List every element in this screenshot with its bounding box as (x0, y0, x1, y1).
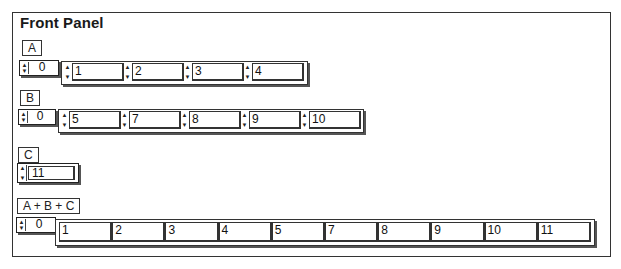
index-spinner[interactable]: ▲ ▼ (18, 219, 26, 231)
decrement-arrow-icon[interactable]: ▼ (62, 122, 68, 128)
decrement-arrow-icon[interactable]: ▼ (21, 117, 27, 123)
decrement-arrow-icon[interactable]: ▼ (185, 74, 191, 80)
sum-array-index[interactable]: ▲ ▼ 0 (16, 217, 56, 233)
element-value: 3 (168, 223, 175, 238)
panel-title: Front Panel (20, 14, 104, 31)
index-spinner[interactable]: ▲ ▼ (20, 111, 28, 123)
index-value[interactable]: 0 (30, 61, 54, 74)
increment-arrow-icon[interactable]: ▲ (62, 112, 68, 118)
element-value: 8 (381, 223, 388, 238)
element-field: 9 (431, 222, 484, 242)
array-element: 2 (112, 222, 165, 242)
array-element: 8 (378, 222, 431, 242)
sum-array-label: A + B + C (17, 198, 80, 214)
element-spinner[interactable]: ▲▼ (64, 64, 71, 80)
index-value[interactable]: 0 (29, 110, 51, 123)
element-field: 4 (219, 222, 272, 242)
element-value[interactable]: 8 (192, 112, 199, 127)
array-element[interactable]: ▲▼2 (124, 63, 184, 81)
array-element[interactable]: ▲▼8 (181, 111, 241, 129)
index-value[interactable]: 0 (27, 218, 51, 231)
decrement-arrow-icon[interactable]: ▼ (242, 122, 248, 128)
element-value[interactable]: 9 (252, 112, 259, 127)
element-field[interactable]: 5 (69, 111, 121, 129)
element-field[interactable]: 7 (129, 111, 181, 129)
element-field: 1 (59, 222, 112, 242)
element-value: 9 (434, 223, 441, 238)
array-element: 4 (219, 222, 272, 242)
array-element: 5 (272, 222, 325, 242)
element-value: 7 (328, 223, 335, 238)
array-element[interactable]: ▲▼9 (241, 111, 301, 129)
element-value: 11 (541, 223, 553, 238)
decrement-arrow-icon[interactable]: ▼ (122, 122, 128, 128)
increment-arrow-icon[interactable]: ▲ (122, 112, 128, 118)
element-spinner[interactable]: ▲▼ (61, 112, 68, 128)
increment-arrow-icon[interactable]: ▲ (245, 64, 251, 70)
element-value: 2 (115, 223, 122, 238)
decrement-arrow-icon[interactable]: ▼ (125, 74, 131, 80)
array-a-label: A (22, 40, 42, 56)
increment-arrow-icon[interactable]: ▲ (125, 64, 131, 70)
increment-arrow-icon[interactable]: ▲ (185, 64, 191, 70)
element-field: 5 (272, 222, 325, 242)
array-element[interactable]: ▲▼3 (184, 63, 244, 81)
array-element: 11 (538, 222, 591, 242)
element-value[interactable]: 7 (132, 112, 139, 127)
element-field[interactable]: 10 (309, 111, 361, 129)
increment-arrow-icon[interactable]: ▲ (182, 112, 188, 118)
array-a-index[interactable]: ▲ ▼ 0 (19, 60, 59, 76)
increment-arrow-icon[interactable]: ▲ (65, 64, 71, 70)
element-value[interactable]: 5 (72, 112, 79, 127)
array-b-index[interactable]: ▲ ▼ 0 (18, 109, 56, 125)
element-field[interactable]: 4 (252, 63, 304, 81)
element-field[interactable]: 2 (132, 63, 184, 81)
element-field[interactable]: 1 (72, 63, 124, 81)
element-value[interactable]: 10 (312, 112, 325, 127)
array-element[interactable]: ▲▼10 (301, 111, 361, 129)
array-element[interactable]: ▲▼7 (121, 111, 181, 129)
element-spinner[interactable]: ▲▼ (124, 64, 131, 80)
element-field: 2 (112, 222, 165, 242)
decrement-arrow-icon[interactable]: ▼ (20, 175, 26, 181)
numeric-spinner[interactable]: ▲ ▼ (19, 165, 27, 181)
decrement-arrow-icon[interactable]: ▼ (245, 74, 251, 80)
numeric-c-control[interactable]: ▲ ▼ 11 (17, 163, 79, 183)
numeric-c-value[interactable]: 11 (32, 167, 44, 180)
index-spinner[interactable]: ▲ ▼ (21, 62, 29, 74)
decrement-arrow-icon[interactable]: ▼ (19, 225, 25, 231)
numeric-c-field[interactable]: 11 (28, 166, 75, 180)
array-element[interactable]: ▲▼5 (61, 111, 121, 129)
decrement-arrow-icon[interactable]: ▼ (302, 122, 308, 128)
element-field: 11 (538, 222, 591, 242)
element-field: 8 (378, 222, 431, 242)
element-field: 3 (165, 222, 218, 242)
decrement-arrow-icon[interactable]: ▼ (22, 68, 28, 74)
element-field[interactable]: 9 (249, 111, 301, 129)
array-b: ▲▼5▲▼7▲▼8▲▼9▲▼10 (58, 109, 364, 133)
element-spinner[interactable]: ▲▼ (301, 112, 308, 128)
element-value[interactable]: 4 (255, 64, 262, 79)
element-spinner[interactable]: ▲▼ (184, 64, 191, 80)
array-element: 3 (165, 222, 218, 242)
element-value[interactable]: 3 (195, 64, 202, 79)
element-value[interactable]: 2 (135, 64, 142, 79)
array-element[interactable]: ▲▼1 (64, 63, 124, 81)
element-value: 5 (275, 223, 282, 238)
element-spinner[interactable]: ▲▼ (241, 112, 248, 128)
element-spinner[interactable]: ▲▼ (244, 64, 251, 80)
array-a: ▲▼1▲▼2▲▼3▲▼4 (61, 61, 308, 85)
element-field[interactable]: 8 (189, 111, 241, 129)
decrement-arrow-icon[interactable]: ▼ (65, 74, 71, 80)
element-field[interactable]: 3 (192, 63, 244, 81)
array-element: 9 (431, 222, 484, 242)
element-value[interactable]: 1 (75, 64, 82, 79)
element-value: 4 (222, 223, 229, 238)
array-element[interactable]: ▲▼4 (244, 63, 304, 81)
increment-arrow-icon[interactable]: ▲ (20, 165, 26, 171)
element-spinner[interactable]: ▲▼ (121, 112, 128, 128)
increment-arrow-icon[interactable]: ▲ (242, 112, 248, 118)
decrement-arrow-icon[interactable]: ▼ (182, 122, 188, 128)
increment-arrow-icon[interactable]: ▲ (302, 112, 308, 118)
element-spinner[interactable]: ▲▼ (181, 112, 188, 128)
